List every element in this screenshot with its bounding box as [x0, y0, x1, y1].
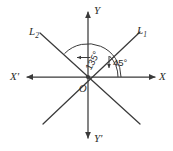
geometry-figure: L2 L1 X X' Y Y' O 135° 45°: [0, 0, 173, 151]
origin-label: O: [79, 84, 87, 95]
origin-point: [86, 75, 90, 79]
axis-label-y-prime: Y': [94, 133, 102, 144]
figure-canvas: [0, 0, 173, 151]
axis-label-x: X: [159, 71, 166, 82]
axis-label-x-prime: X': [10, 71, 19, 82]
axis-label-y: Y: [94, 5, 100, 16]
angle-label-45: 45°: [113, 58, 127, 68]
line-label-L2: L2: [29, 26, 39, 40]
line-label-L1: L1: [137, 25, 147, 39]
